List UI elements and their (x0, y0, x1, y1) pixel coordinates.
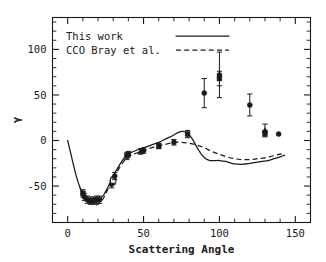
marker-filled-square (217, 76, 222, 81)
marker-filled-square (185, 132, 190, 137)
scatter-plot: 050100150 100500-50 This work CCO Bray e… (0, 0, 326, 262)
marker-filled-circle (171, 140, 176, 145)
data-point (156, 143, 161, 148)
data-point (126, 151, 131, 156)
marker-filled-circle (202, 91, 207, 96)
figure-container: 050100150 100500-50 This work CCO Bray e… (0, 0, 326, 262)
legend-label-this-work: This work (66, 30, 124, 42)
x-tick-label: 100 (210, 227, 229, 239)
y-tick-label: 100 (28, 43, 47, 55)
marker-filled-circle (141, 148, 146, 153)
x-tick-label: 0 (65, 227, 71, 239)
marker-filled-circle (97, 197, 102, 202)
marker-filled-square (156, 144, 161, 149)
x-tick-label: 50 (137, 227, 150, 239)
y-tick-label: -50 (28, 180, 47, 192)
marker-filled-circle (247, 102, 252, 107)
data-point (262, 130, 267, 135)
y-axis-title: γ (10, 116, 23, 123)
marker-filled-circle (112, 174, 117, 179)
x-axis-title: Scattering Angle (129, 243, 235, 256)
data-point (276, 132, 281, 137)
data-point (185, 130, 190, 137)
data-point (141, 148, 146, 153)
x-tick-label: 150 (286, 227, 305, 239)
y-tick-label: 0 (40, 134, 46, 146)
data-point (171, 140, 176, 145)
legend-label-cco-bray: CCO Bray et al. (66, 44, 161, 56)
marker-filled-square (263, 131, 268, 136)
y-tick-label: 50 (34, 89, 47, 101)
marker-filled-circle (126, 152, 131, 157)
marker-filled-circle (276, 132, 281, 137)
